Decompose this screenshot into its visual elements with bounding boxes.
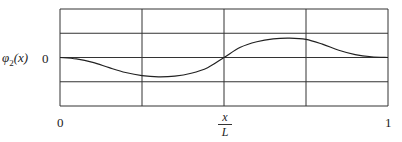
x-tick-end: 1: [385, 116, 392, 129]
x-axis-label-denominator: L: [218, 126, 232, 138]
x-tick-start: 0: [57, 116, 64, 129]
y-axis-label: φ2(x): [2, 51, 28, 68]
y-tick-zero: 0: [42, 52, 49, 65]
x-axis-label-numerator: x: [218, 111, 232, 123]
x-axis-label: x L: [218, 111, 232, 138]
